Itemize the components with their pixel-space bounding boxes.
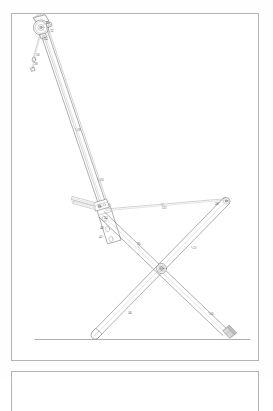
mast — [40, 28, 113, 220]
numeral-22: 22 — [162, 205, 167, 210]
numeral-34: 34 — [43, 37, 48, 41]
head-assembly — [33, 14, 52, 39]
numeral-label: 16 — [210, 312, 214, 316]
numeral-26: 26 — [137, 242, 141, 249]
numeral-label: 34 — [44, 37, 48, 41]
numeral-40: 40 — [100, 226, 104, 230]
numeral-label: 14 — [128, 311, 132, 315]
numeral-14: 14 — [128, 311, 132, 315]
numeral-16: 16 — [208, 312, 214, 316]
numeral-36: 36 — [34, 53, 40, 58]
numeral-label: 12 — [193, 246, 197, 250]
numeral-label: 24 — [104, 216, 108, 220]
numeral-label: 36 — [36, 53, 40, 57]
numeral-label: 38 — [34, 62, 38, 66]
numeral-label: 40 — [100, 226, 104, 230]
numeral-label: 26 — [137, 242, 141, 246]
numeral-42: 42 — [99, 235, 103, 239]
numeral-label: 42 — [99, 235, 103, 239]
center-pivot — [157, 264, 167, 274]
numeral-28: 28 — [215, 202, 221, 206]
numeral-label: 32 — [50, 29, 54, 33]
numeral-label: 22 — [163, 206, 167, 210]
numeral-label: 30 — [46, 21, 50, 25]
numeral-label: 20 — [100, 178, 104, 182]
adjustment-bracket — [93, 199, 121, 244]
numeral-label: 28 — [215, 202, 219, 206]
wedge-detail — [72, 197, 96, 210]
numeral-label: 18 — [77, 128, 81, 132]
numeral-12: 12 — [191, 246, 197, 250]
